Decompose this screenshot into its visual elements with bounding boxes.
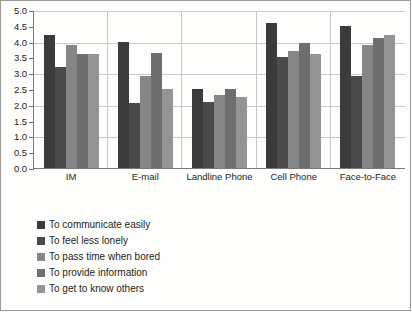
y-axis: 5.04.54.03.53.02.52.01.51.00.50.0 [1,11,31,169]
x-axis-label: IM [34,171,108,201]
y-axis-tick-label: 0.0 [14,164,27,174]
bar [340,26,351,168]
legend-label: To provide information [49,268,147,278]
legend-swatch [37,237,45,245]
bar [214,95,225,168]
legend-item: To get to know others [37,281,160,297]
x-axis-labels: IME-mailLandline PhoneCell PhoneFace-to-… [34,171,405,201]
x-axis-label: Cell Phone [257,171,331,201]
legend-swatch [37,253,45,261]
y-axis-tick-label: 0.5 [14,148,27,158]
bar [44,35,55,168]
bar [299,43,310,168]
plot-area [33,11,405,169]
bar [118,42,129,168]
bar [77,54,88,168]
bar [192,89,203,168]
x-axis-line [33,168,405,169]
y-axis-tick-label: 1.5 [14,117,27,127]
x-axis-label: Face-to-Face [331,171,405,201]
legend-item: To feel less lonely [37,233,160,249]
bar [55,67,66,168]
bar [151,53,162,168]
bar [236,97,247,168]
legend-label: To feel less lonely [49,236,128,246]
bar-groups [34,11,405,168]
bar [225,89,236,168]
bar [140,76,151,168]
y-axis-tick-label: 1.0 [14,133,27,143]
x-axis-label: E-mail [108,171,182,201]
y-axis-tick-label: 5.0 [14,6,27,16]
x-axis-label: Landline Phone [182,171,256,201]
bar [266,23,277,168]
y-axis-tick-label: 4.5 [14,22,27,32]
legend-label: To pass time when bored [49,252,160,262]
bar [277,57,288,168]
bar [288,51,299,168]
bar-group [182,11,256,168]
y-axis-tick [29,169,34,170]
legend-swatch [37,285,45,293]
bar [88,54,99,168]
legend-item: To provide information [37,265,160,281]
bar-group [331,11,405,168]
y-axis-tick-label: 3.5 [14,54,27,64]
bar-group [108,11,182,168]
bar-group [34,11,108,168]
legend-label: To get to know others [49,284,144,294]
chart-legend: To communicate easilyTo feel less lonely… [37,217,160,297]
legend-label: To communicate easily [49,220,150,230]
legend-item: To communicate easily [37,217,160,233]
bar [129,103,140,168]
chart-frame: 5.04.54.03.53.02.52.01.51.00.50.0 IME-ma… [0,0,411,311]
y-axis-tick-label: 2.0 [14,101,27,111]
y-axis-tick-label: 4.0 [14,38,27,48]
legend-swatch [37,269,45,277]
bar [203,102,214,168]
bar [66,45,77,168]
bar [384,35,395,168]
legend-swatch [37,221,45,229]
y-axis-tick-label: 2.5 [14,85,27,95]
bar-group [257,11,331,168]
legend-item: To pass time when bored [37,249,160,265]
bar [310,54,321,168]
bar [351,76,362,168]
bar [362,45,373,168]
y-axis-tick-label: 3.0 [14,69,27,79]
bar [162,89,173,168]
bar [373,38,384,168]
